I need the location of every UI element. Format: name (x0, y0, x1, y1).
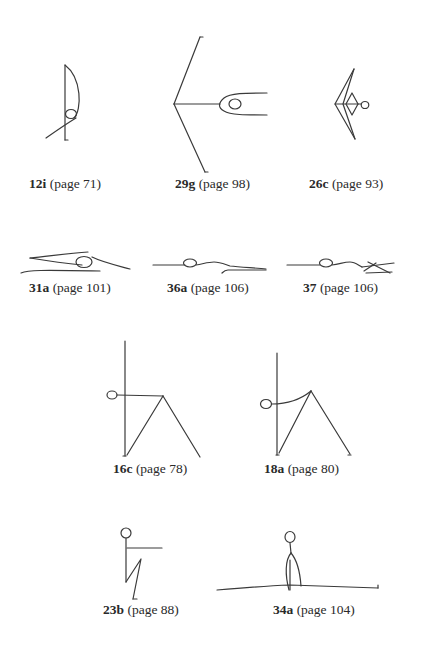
figure-37-head (320, 259, 333, 267)
figure-12i-code: 12i (29, 176, 46, 191)
figure-16c-drawing (107, 341, 200, 457)
figure-31a-code: 31a (29, 280, 49, 295)
figure-34a-drawing (217, 532, 378, 591)
figures-canvas (0, 0, 427, 654)
figure-37-drawing (287, 259, 394, 273)
figure-12i-caption: 12i (page 71) (29, 176, 101, 192)
figure-23b-code: 23b (103, 602, 124, 617)
figure-16c-arm (117, 395, 163, 396)
figure-12i-page-ref: (page 71) (50, 176, 101, 191)
figure-37-code: 37 (303, 280, 317, 295)
figure-34a-code: 34a (273, 602, 293, 617)
figure-29g-drawing (174, 37, 267, 172)
figure-31a-caption: 31a (page 101) (29, 280, 111, 296)
figure-34a-right-arm (291, 553, 301, 586)
figure-36a-arm-bottom (222, 270, 266, 273)
figure-18a-head (261, 400, 272, 409)
figure-26c-drawing (335, 69, 369, 139)
figure-18a-drawing (261, 353, 352, 455)
figure-36a-page-ref: (page 106) (191, 280, 249, 295)
figure-29g-caption: 29g (page 98) (175, 176, 250, 192)
figure-23b-caption: 23b (page 88) (103, 602, 179, 618)
figure-26c-code: 26c (309, 176, 329, 191)
figure-31a-leg-mid (30, 258, 82, 265)
figure-31a-base (21, 270, 100, 273)
figure-26c-head (361, 102, 369, 109)
figure-34a-head (285, 532, 295, 543)
figure-37-caption: 37 (page 106) (303, 280, 378, 296)
figure-29g-arms (220, 93, 268, 115)
figure-23b-drawing (121, 528, 162, 599)
figure-23b-page-ref: (page 88) (127, 602, 178, 617)
figure-12i-arm (46, 118, 76, 138)
figure-18a-front-leg (311, 391, 350, 454)
figure-31a-arm (92, 257, 130, 269)
figure-36a-caption: 36a (page 106) (167, 280, 249, 296)
figure-18a-caption: 18a (page 80) (264, 461, 339, 477)
figure-34a-neck (290, 543, 291, 553)
figure-31a-drawing (21, 252, 130, 273)
figure-31a-head (76, 257, 92, 268)
figure-16c-page-ref: (page 78) (136, 461, 187, 476)
figure-16c-head (107, 391, 117, 399)
figure-34a-page-ref: (page 104) (297, 602, 355, 617)
figure-29g-leg-upper (174, 37, 200, 104)
figure-29g-code: 29g (175, 176, 195, 191)
figure-26c-page-ref: (page 93) (332, 176, 383, 191)
figure-31a-page-ref: (page 101) (53, 280, 111, 295)
figure-34a-caption: 34a (page 104) (273, 602, 355, 618)
figure-18a-page-ref: (page 80) (288, 461, 339, 476)
figure-29g-leg-lower (174, 104, 205, 172)
figure-12i-head (66, 110, 77, 119)
figure-36a-head (184, 259, 197, 267)
figure-26c-caption: 26c (page 93) (309, 176, 383, 192)
figure-36a-arm-top (196, 262, 266, 269)
figure-16c-inner-leg (127, 396, 163, 455)
figure-36a-code: 36a (167, 280, 187, 295)
figure-12i-drawing (46, 65, 79, 140)
figure-29g-page-ref: (page 98) (199, 176, 250, 191)
figure-37-spine (332, 262, 362, 267)
figure-29g-head (229, 99, 241, 109)
figure-16c-caption: 16c (page 78) (113, 461, 187, 477)
figure-36a-drawing (153, 259, 266, 273)
figure-34a-legs (217, 585, 378, 590)
figure-37-page-ref: (page 106) (320, 280, 378, 295)
figure-23b-head (121, 528, 131, 538)
figure-18a-code: 18a (264, 461, 284, 476)
figure-23b-leg (126, 559, 141, 599)
figure-16c-code: 16c (113, 461, 133, 476)
figure-16c-front-leg (163, 396, 200, 457)
